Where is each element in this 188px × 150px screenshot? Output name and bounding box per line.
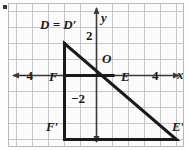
figure-canvas: D = D′ y 2 O −4 F E 4 x −2 F′ E′: [0, 0, 188, 150]
label-vertex-e-prime: E′: [172, 120, 184, 133]
label-y-tick-neg-2: −2: [71, 92, 85, 105]
label-vertex-f: F: [49, 70, 58, 83]
vertex-point-fprime: [63, 138, 66, 141]
label-vertex-e: E: [121, 70, 130, 83]
corner-artifact-dot: [3, 5, 7, 9]
label-d-equals-d-prime: D = D′: [40, 18, 76, 31]
label-origin: O: [102, 52, 111, 65]
vertex-point-eprime: [175, 138, 178, 141]
label-x-axis: x: [177, 68, 184, 81]
label-x-tick-neg-4: −4: [19, 69, 33, 82]
label-vertex-f-prime: F′: [46, 120, 58, 133]
y-axis-arrow-up: [94, 7, 100, 14]
label-y-tick-2: 2: [86, 29, 93, 42]
coordinate-grid: D = D′ y 2 O −4 F E 4 x −2 F′ E′: [8, 3, 184, 147]
vertex-point-f: [63, 74, 66, 77]
label-x-tick-4: 4: [152, 69, 159, 82]
vertex-point-d: [63, 42, 66, 45]
vertex-point-e: [111, 74, 114, 77]
label-y-axis: y: [101, 11, 107, 24]
x-axis-arrow-left: [12, 73, 19, 79]
